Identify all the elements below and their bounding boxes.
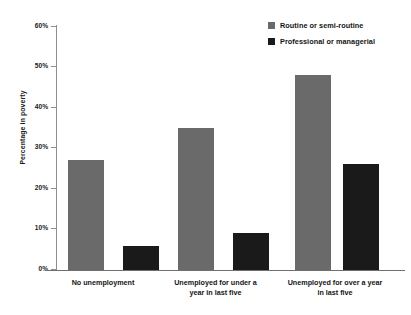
x-category-line: year in last five — [158, 288, 273, 298]
y-tick-label-30: 30% — [18, 143, 48, 150]
y-tick-label-0: 0% — [18, 265, 48, 272]
x-category-line: in last five — [271, 288, 399, 298]
x-category-line: Unemployed for over a year — [271, 278, 399, 288]
bar-professional-over-a-year — [343, 164, 379, 270]
y-tick-label-60: 60% — [18, 22, 48, 29]
bar-professional-no-unemployment — [123, 246, 159, 270]
y-tick-label-40: 40% — [18, 103, 48, 110]
x-category-label-over-a-year: Unemployed for over a year in last five — [271, 278, 399, 297]
bar-routine-no-unemployment — [68, 160, 104, 270]
x-category-label-under-a-year: Unemployed for under a year in last five — [158, 278, 273, 297]
x-category-line: Unemployed for under a — [158, 278, 273, 288]
bar-chart: Routine or semi-routine Professional or … — [0, 0, 411, 315]
plot-area — [57, 26, 401, 270]
bar-routine-over-a-year — [295, 75, 331, 270]
y-axis-title: Percentage in poverty — [19, 73, 26, 183]
bar-routine-under-a-year — [178, 128, 214, 270]
y-tick-label-50: 50% — [18, 62, 48, 69]
x-category-line: No unemployment — [48, 278, 158, 288]
x-category-label-no-unemployment: No unemployment — [48, 278, 158, 288]
y-tick-label-10: 10% — [18, 224, 48, 231]
bar-professional-under-a-year — [233, 233, 269, 270]
y-tick-label-20: 20% — [18, 184, 48, 191]
x-axis-line — [45, 270, 405, 271]
